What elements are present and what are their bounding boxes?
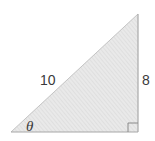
hypotenuse-label: 10 <box>40 73 56 87</box>
right-triangle-diagram <box>0 0 155 141</box>
angle-theta-label: θ <box>26 119 33 133</box>
opposite-side-label: 8 <box>142 73 150 87</box>
